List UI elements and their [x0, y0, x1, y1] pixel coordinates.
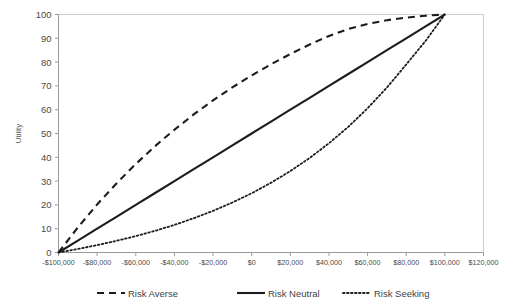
x-tick-label: -$60,000	[122, 258, 150, 267]
x-tick-label: $60,000	[355, 258, 381, 267]
y-tick-label: 50	[41, 128, 52, 139]
chart-container: 0102030405060708090100 -$100,000-$80,000…	[0, 0, 521, 308]
x-tick-label: $0	[248, 258, 256, 267]
x-tick-label: -$80,000	[83, 258, 111, 267]
x-axis-ticks: -$100,000-$80,000-$60,000-$40,000-$20,00…	[42, 253, 498, 268]
x-tick-label: -$100,000	[42, 258, 74, 267]
y-axis-title: Utility	[14, 124, 23, 144]
y-tick-label: 60	[41, 104, 52, 115]
chart-series-group	[59, 15, 445, 253]
y-tick-label: 20	[41, 199, 52, 210]
legend-label: Risk Neutral	[268, 288, 320, 299]
utility-curves-chart: 0102030405060708090100 -$100,000-$80,000…	[0, 0, 521, 308]
x-tick-label: $20,000	[277, 258, 303, 267]
series-line-risk-neutral	[59, 15, 445, 253]
x-tick-label: $100,000	[430, 258, 460, 267]
y-tick-label: 10	[41, 223, 52, 234]
y-tick-label: 100	[36, 9, 52, 20]
y-tick-label: 90	[41, 33, 52, 44]
chart-legend: Risk AverseRisk NeutralRisk Seeking	[97, 288, 429, 299]
plot-frame	[59, 15, 484, 253]
y-tick-label: 40	[41, 152, 52, 163]
legend-label: Risk Seeking	[374, 288, 429, 299]
legend-label: Risk Averse	[128, 288, 178, 299]
x-tick-label: $40,000	[316, 258, 342, 267]
y-tick-label: 30	[41, 176, 52, 187]
x-tick-label: -$20,000	[199, 258, 227, 267]
y-axis-ticks: 0102030405060708090100	[36, 9, 59, 258]
legend-item-risk-seeking[interactable]: Risk Seeking	[343, 288, 429, 299]
x-tick-label: -$40,000	[160, 258, 188, 267]
y-tick-label: 70	[41, 80, 52, 91]
y-tick-label: 80	[41, 57, 52, 68]
legend-item-risk-averse[interactable]: Risk Averse	[97, 288, 178, 299]
x-tick-label: $80,000	[393, 258, 419, 267]
x-tick-label: $120,000	[469, 258, 499, 267]
legend-item-risk-neutral[interactable]: Risk Neutral	[237, 288, 320, 299]
y-tick-label: 0	[46, 247, 51, 258]
